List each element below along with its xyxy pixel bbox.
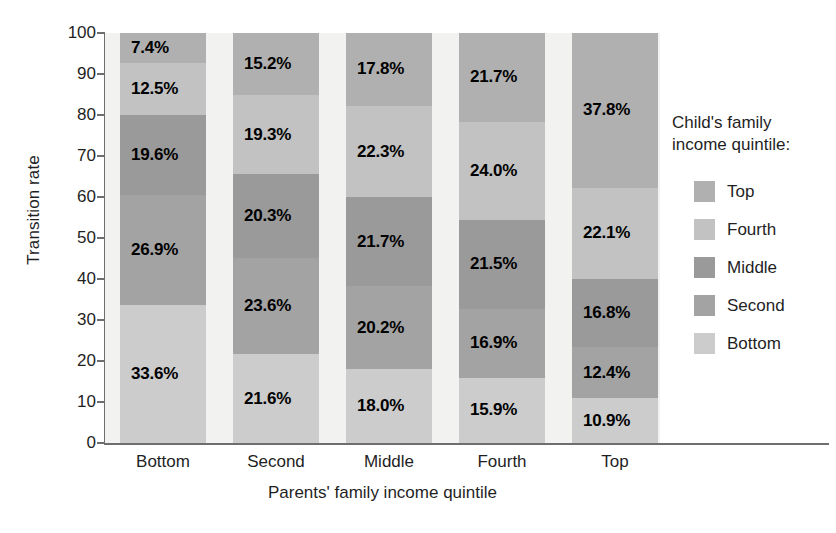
legend-item-second[interactable]: Second: [672, 287, 832, 325]
bar-segment-middle[interactable]: 16.8%: [572, 279, 658, 348]
legend-swatch-icon: [694, 257, 715, 278]
bar-segment-value-label: 21.7%: [459, 67, 517, 87]
bar-segment-value-label: 12.4%: [572, 363, 630, 383]
bar-segment-value-label: 20.3%: [233, 206, 291, 226]
bar-segment-top[interactable]: 37.8%: [572, 33, 658, 188]
y-axis-tick-label: 90: [26, 64, 96, 84]
bar-segment-value-label: 33.6%: [120, 364, 178, 384]
bar-segment-value-label: 16.9%: [459, 333, 517, 353]
y-axis-tick-label: 10: [26, 392, 96, 412]
bar-segment-fourth[interactable]: 24.0%: [459, 122, 545, 220]
bar-segment-bottom[interactable]: 15.9%: [459, 378, 545, 443]
y-axis-tick-label: 60: [26, 187, 96, 207]
legend-item-top[interactable]: Top: [672, 173, 832, 211]
bar-segment-value-label: 21.6%: [233, 389, 291, 409]
legend-item-middle[interactable]: Middle: [672, 249, 832, 287]
y-axis-tick-mark: [97, 401, 105, 403]
y-axis-title: Transition rate: [24, 90, 44, 330]
y-axis-tick-mark: [97, 32, 105, 34]
y-axis-tick-label: 40: [26, 269, 96, 289]
bar-segment-middle[interactable]: 20.3%: [233, 174, 319, 257]
bar-segment-value-label: 17.8%: [346, 59, 404, 79]
bar-segment-value-label: 22.3%: [346, 142, 404, 162]
bar-segment-fourth[interactable]: 22.1%: [572, 188, 658, 279]
y-axis-tick-mark: [97, 442, 105, 444]
legend-items: TopFourthMiddleSecondBottom: [672, 173, 832, 363]
y-axis-tick-mark: [97, 278, 105, 280]
bar-segment-middle[interactable]: 21.5%: [459, 220, 545, 308]
bar-segment-value-label: 26.9%: [120, 240, 178, 260]
bar-segment-value-label: 21.5%: [459, 254, 517, 274]
stacked-bar-chart: Transition rate 1009080706050403020100 7…: [0, 0, 836, 533]
bar-segment-second[interactable]: 20.2%: [346, 286, 432, 369]
bar-segment-value-label: 20.2%: [346, 318, 404, 338]
legend-item-label: Top: [727, 182, 754, 202]
bar-segment-value-label: 12.5%: [120, 79, 178, 99]
bar-segment-value-label: 10.9%: [572, 411, 630, 431]
bar-segment-value-label: 19.6%: [120, 145, 178, 165]
bar-segment-value-label: 24.0%: [459, 161, 517, 181]
y-axis-tick-mark: [97, 73, 105, 75]
bar-segment-second[interactable]: 26.9%: [120, 195, 206, 305]
legend-swatch-icon: [694, 333, 715, 354]
bar-segment-bottom[interactable]: 18.0%: [346, 369, 432, 443]
bar-second[interactable]: 15.2%19.3%20.3%23.6%21.6%: [233, 33, 319, 443]
legend: Child's family income quintile: TopFourt…: [672, 112, 832, 363]
y-axis-tick-label: 0: [26, 433, 96, 453]
bar-segment-value-label: 16.8%: [572, 303, 630, 323]
bar-segment-fourth[interactable]: 19.3%: [233, 95, 319, 174]
y-axis-tick-mark: [97, 196, 105, 198]
y-axis-tick-label: 70: [26, 146, 96, 166]
bar-segment-value-label: 23.6%: [233, 296, 291, 316]
bar-segment-second[interactable]: 23.6%: [233, 258, 319, 355]
y-axis-tick-label: 50: [26, 228, 96, 248]
x-axis-title: Parents' family income quintile: [105, 483, 660, 503]
legend-item-label: Second: [727, 296, 785, 316]
bar-middle[interactable]: 17.8%22.3%21.7%20.2%18.0%: [346, 33, 432, 443]
bar-segment-top[interactable]: 15.2%: [233, 33, 319, 95]
bar-segment-top[interactable]: 17.8%: [346, 33, 432, 106]
legend-title-line-1: Child's family: [672, 112, 832, 134]
legend-item-label: Fourth: [727, 220, 776, 240]
y-axis-tick-mark: [97, 114, 105, 116]
bar-segment-middle[interactable]: 21.7%: [346, 197, 432, 286]
bar-segment-bottom[interactable]: 21.6%: [233, 354, 319, 443]
bar-segment-bottom[interactable]: 10.9%: [572, 398, 658, 443]
bar-segment-value-label: 15.9%: [459, 400, 517, 420]
y-axis-tick-label: 30: [26, 310, 96, 330]
legend-item-fourth[interactable]: Fourth: [672, 211, 832, 249]
bar-segment-value-label: 7.4%: [120, 38, 169, 58]
bar-segment-bottom[interactable]: 33.6%: [120, 305, 206, 443]
x-axis-tick-label-top: Top: [550, 452, 680, 472]
bar-bottom[interactable]: 7.4%12.5%19.6%26.9%33.6%: [120, 33, 206, 443]
legend-item-label: Bottom: [727, 334, 781, 354]
bar-top[interactable]: 37.8%22.1%16.8%12.4%10.9%: [572, 33, 658, 443]
legend-title-line-2: income quintile:: [672, 134, 832, 156]
bar-segment-value-label: 21.7%: [346, 232, 404, 252]
legend-title: Child's family income quintile:: [672, 112, 832, 157]
bar-segment-value-label: 15.2%: [233, 54, 291, 74]
bar-segment-top[interactable]: 7.4%: [120, 33, 206, 63]
y-axis-tick-mark: [97, 155, 105, 157]
bar-segment-value-label: 37.8%: [572, 100, 630, 120]
bar-fourth[interactable]: 21.7%24.0%21.5%16.9%15.9%: [459, 33, 545, 443]
x-axis-tick-label-second: Second: [211, 452, 341, 472]
x-axis-line: [104, 443, 829, 445]
bar-segment-middle[interactable]: 19.6%: [120, 115, 206, 195]
bar-segment-top[interactable]: 21.7%: [459, 33, 545, 122]
bar-segment-value-label: 18.0%: [346, 396, 404, 416]
legend-swatch-icon: [694, 181, 715, 202]
bar-segment-fourth[interactable]: 12.5%: [120, 63, 206, 114]
bar-segment-fourth[interactable]: 22.3%: [346, 106, 432, 197]
legend-item-label: Middle: [727, 258, 777, 278]
bar-segment-second[interactable]: 16.9%: [459, 309, 545, 378]
y-axis-tick-mark: [97, 237, 105, 239]
legend-item-bottom[interactable]: Bottom: [672, 325, 832, 363]
bar-segment-second[interactable]: 12.4%: [572, 347, 658, 398]
y-axis-tick-mark: [97, 360, 105, 362]
y-axis-tick-label: 20: [26, 351, 96, 371]
bar-segment-value-label: 22.1%: [572, 223, 630, 243]
legend-swatch-icon: [694, 219, 715, 240]
x-axis-tick-label-fourth: Fourth: [437, 452, 567, 472]
y-axis-tick-mark: [97, 319, 105, 321]
